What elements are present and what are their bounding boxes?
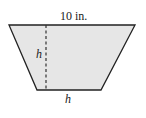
bottom-base-label: h [65,93,71,105]
height-label: h [36,48,42,60]
trapezoid-shape [9,25,135,90]
top-base-label: 10 in. [60,10,87,22]
